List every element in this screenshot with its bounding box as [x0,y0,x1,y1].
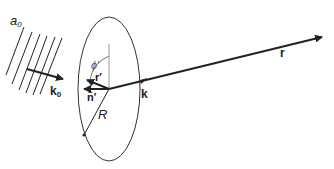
incident-wavevector-arrow [27,69,63,79]
azimuth-angle-label: ϕ′ [91,60,99,71]
scattered-wavevector-arrowhead [140,78,148,84]
incident-wavevector-label: k0 [50,85,61,99]
scattered-wavevector-label: k [141,88,148,100]
source-point-label: r′ [95,72,102,83]
radius-endpoint [83,134,86,137]
observation-vector-label: r [280,47,285,59]
radius-label: R [98,108,107,121]
wave-amplitude-label: a0 [10,14,22,29]
normal-vector-label: n̂′ [87,92,96,103]
